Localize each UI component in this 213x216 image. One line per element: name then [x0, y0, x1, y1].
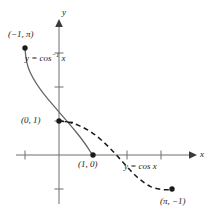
label-curve-arccos-exponent: −1 — [52, 51, 60, 58]
label-curve-arccos-suffix: x — [61, 53, 65, 63]
label-curve-arccos-prefix: y = cos — [25, 53, 52, 63]
point-1-0 — [90, 152, 95, 157]
label-point-0-1: (0, 1) — [21, 116, 41, 125]
label-point-neg1-pi: (−1, π) — [8, 30, 34, 39]
label-curve-cos: y = cos x — [124, 162, 157, 171]
point-neg1-pi — [22, 45, 27, 50]
label-x-axis: x — [200, 150, 204, 159]
x-axis-arrow — [189, 151, 197, 159]
y-axis-arrow — [55, 19, 63, 27]
label-y-axis: y — [62, 8, 66, 17]
point-0-1 — [56, 118, 61, 123]
label-point-1-0: (1, 0) — [78, 160, 98, 169]
label-point-pi-neg1: (π, −1) — [160, 197, 186, 206]
point-pi-neg1 — [169, 186, 174, 191]
label-curve-arccos: y = cos−1 x — [25, 52, 65, 63]
